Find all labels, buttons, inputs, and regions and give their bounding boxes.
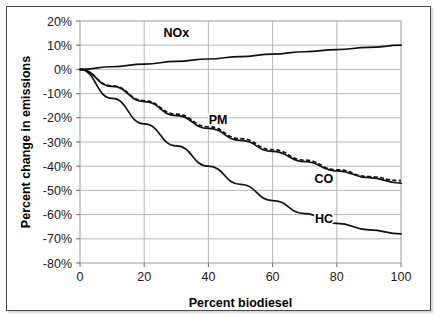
y-tick-label: -40%: [43, 160, 72, 174]
y-tick-label: -30%: [43, 136, 72, 150]
y-axis-tick-labels: 20%10%0%-10%-20%-30%-40%-50%-60%-70%-80%: [43, 15, 72, 271]
y-tick-label: -10%: [43, 87, 72, 101]
y-tick-label: 20%: [47, 15, 72, 29]
series-label-co: CO: [315, 172, 334, 186]
series-label-hc: HC: [315, 212, 333, 226]
y-tick-label: -20%: [43, 111, 72, 125]
x-axis-tickmarks: [80, 263, 401, 267]
x-axis-title: Percent biodiesel: [189, 296, 293, 310]
y-tick-label: -60%: [43, 208, 72, 222]
y-axis-tickmarks: [76, 21, 80, 263]
emissions-line-chart: 20%10%0%-10%-20%-30%-40%-50%-60%-70%-80%…: [1, 1, 439, 321]
x-tick-label: 60: [266, 270, 280, 284]
x-tick-label: 80: [330, 270, 344, 284]
y-tick-label: -70%: [43, 232, 72, 246]
series-label-nox: NOx: [163, 26, 189, 40]
series-label-pm: PM: [209, 113, 228, 127]
y-axis-title: Percent change in emissions: [19, 56, 33, 228]
y-tick-label: 0%: [54, 63, 72, 77]
figure-frame: 20%10%0%-10%-20%-30%-40%-50%-60%-70%-80%…: [6, 6, 431, 311]
x-tick-label: 100: [391, 270, 412, 284]
x-tick-label: 40: [201, 270, 215, 284]
y-tick-label: 10%: [47, 39, 72, 53]
y-tick-label: -80%: [43, 257, 72, 271]
x-axis-tick-labels: 020406080100: [77, 270, 412, 284]
x-tick-label: 20: [137, 270, 151, 284]
x-tick-label: 0: [77, 270, 84, 284]
y-tick-label: -50%: [43, 184, 72, 198]
